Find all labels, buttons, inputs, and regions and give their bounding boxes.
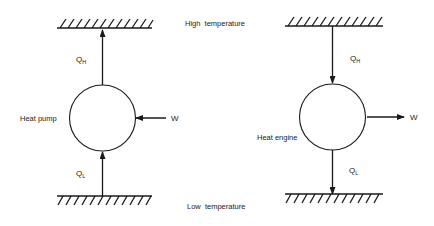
qh-label-heat-engine: QH <box>350 54 360 64</box>
low-temperature-reservoir-right <box>285 194 383 203</box>
heat-pump-circle <box>70 85 136 151</box>
qh-label-heat-pump: QH <box>76 55 86 65</box>
ql-label-heat-pump: QL <box>76 169 85 179</box>
high-temperature-reservoir-right <box>285 17 383 26</box>
low-temperature-reservoir-left <box>57 196 152 205</box>
work-label-heat-pump: W <box>171 114 179 123</box>
heat-pump-heat-engine-diagram: QH Heat pump W QL <box>0 0 434 226</box>
high-temperature-label: High temperature <box>185 19 245 28</box>
high-temperature-reservoir-left <box>57 19 153 28</box>
heat-engine-label: Heat engine <box>257 133 297 142</box>
work-label-heat-engine: W <box>410 113 418 122</box>
heat-pump-group: QH Heat pump W QL <box>20 19 179 205</box>
low-temperature-label: Low temperature <box>187 202 245 211</box>
heat-engine-group: QH Heat engine W QL <box>257 17 418 203</box>
heat-engine-circle <box>300 84 366 150</box>
ql-label-heat-engine: QL <box>349 166 358 176</box>
heat-pump-label: Heat pump <box>20 114 57 123</box>
